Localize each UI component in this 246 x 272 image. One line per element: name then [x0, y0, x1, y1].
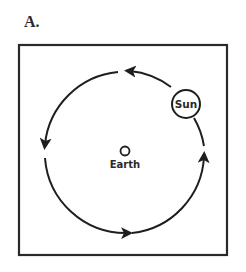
orbit-diagram: Sun Earth	[0, 0, 246, 272]
sun-circle-icon: Sun	[172, 90, 200, 118]
orbit-arc-left	[45, 72, 118, 144]
orbit-arc-sun-lower	[194, 118, 204, 146]
orbit-arc-top	[130, 71, 171, 87]
orbit-arc-right	[132, 157, 204, 233]
earth-circle-icon: Earth	[110, 147, 140, 171]
earth-label: Earth	[110, 159, 140, 170]
sun-label: Sun	[175, 98, 198, 110]
